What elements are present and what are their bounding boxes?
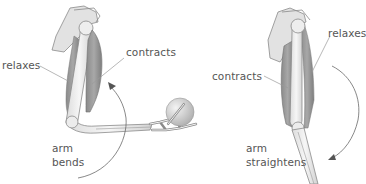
leader-line-relaxes-right xyxy=(312,36,330,72)
straighten-arrow-icon xyxy=(332,66,359,158)
label-arm-straightens-line1: arm xyxy=(246,142,267,154)
label-relaxes-left: relaxes xyxy=(2,59,40,71)
muscle-pair-diagram: relaxes contracts arm bends relaxes cont… xyxy=(0,0,366,184)
label-arm-straightens-line2: straightens xyxy=(246,156,306,168)
label-contracts-left: contracts xyxy=(126,46,176,58)
label-arm-bends-line1: arm xyxy=(52,142,73,154)
label-contracts-right: contracts xyxy=(212,70,262,82)
humerus-bone-right xyxy=(290,22,303,127)
forearm-bones xyxy=(66,118,152,133)
biceps-muscle xyxy=(86,30,102,112)
label-arm-bends-line2: bends xyxy=(52,156,84,168)
leader-line-relaxes xyxy=(40,66,70,82)
label-relaxes-right: relaxes xyxy=(328,27,366,39)
